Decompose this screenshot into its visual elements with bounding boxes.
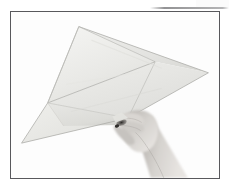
- photograph-image: [11, 12, 219, 178]
- scan-artifact-corner-patch: [196, 0, 229, 7]
- figure-root: Black and white photograph: a hand pinch…: [0, 0, 229, 188]
- photo-frame: Black and white photograph: a hand pinch…: [10, 11, 220, 179]
- scan-artifact-top-line: [150, 7, 229, 9]
